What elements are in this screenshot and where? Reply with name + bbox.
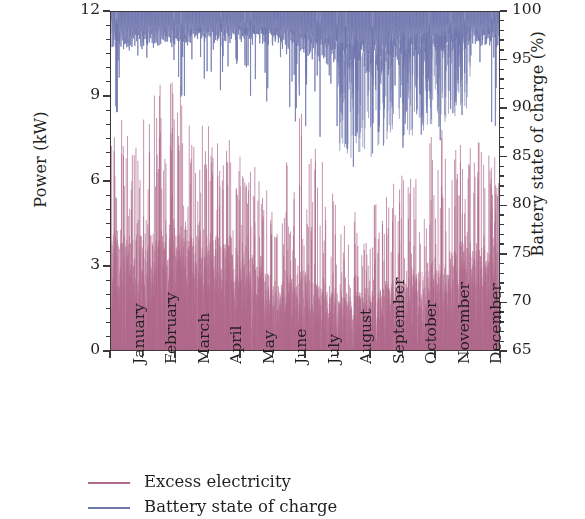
y-axis-right-minor-tick xyxy=(500,292,504,293)
y-axis-right-minor-tick xyxy=(500,166,504,167)
x-axis-tick xyxy=(142,351,143,358)
x-axis-tick xyxy=(402,351,403,358)
x-axis-tick xyxy=(207,351,208,358)
y-axis-left-tick xyxy=(103,10,110,11)
y-axis-right-minor-tick xyxy=(500,175,504,176)
y-axis-left-tick-label: 6 xyxy=(62,170,100,188)
y-axis-right-minor-tick xyxy=(500,20,504,21)
y-axis-left-tick-label: 12 xyxy=(62,0,100,18)
y-axis-right-minor-tick xyxy=(500,282,504,283)
y-axis-right-minor-tick xyxy=(500,341,504,342)
y-axis-left-tick-label: 0 xyxy=(62,340,100,358)
y-axis-right-title: Battery state of charge (%) xyxy=(528,57,547,257)
y-axis-right-minor-tick xyxy=(500,137,504,138)
plot-area xyxy=(110,11,500,351)
chart-legend: Excess electricity Battery state of char… xyxy=(88,470,418,519)
y-axis-right-minor-tick xyxy=(500,39,504,40)
x-axis-tick xyxy=(174,351,175,358)
y-axis-right-minor-tick xyxy=(500,69,504,70)
y-axis-right-tick xyxy=(500,205,507,206)
legend-label-battery-state-of-charge: Battery state of charge xyxy=(144,499,337,516)
x-axis-tick xyxy=(499,351,500,358)
y-axis-right-tick-label: 65 xyxy=(512,340,552,358)
y-axis-right-minor-tick xyxy=(500,49,504,50)
legend-item-excess-electricity: Excess electricity xyxy=(88,470,418,495)
y-axis-right-tick xyxy=(500,10,507,11)
y-axis-left-tick xyxy=(103,265,110,266)
chart-series-canvas xyxy=(111,12,500,351)
y-axis-right-tick xyxy=(500,156,507,157)
x-axis-tick xyxy=(434,351,435,358)
y-axis-left-title: Power (kW) xyxy=(31,60,50,260)
x-axis-tick xyxy=(467,351,468,358)
y-axis-right-minor-tick xyxy=(500,263,504,264)
y-axis-right-minor-tick xyxy=(500,214,504,215)
y-axis-right-minor-tick xyxy=(500,234,504,235)
y-axis-right-minor-tick xyxy=(500,185,504,186)
y-axis-left-tick xyxy=(103,95,110,96)
legend-label-excess-electricity: Excess electricity xyxy=(144,474,291,491)
y-axis-right-minor-tick xyxy=(500,195,504,196)
y-axis-right-minor-tick xyxy=(500,331,504,332)
y-axis-right-tick xyxy=(500,302,507,303)
y-axis-right-minor-tick xyxy=(500,88,504,89)
y-axis-right-minor-tick xyxy=(500,243,504,244)
y-axis-right-minor-tick xyxy=(500,30,504,31)
chart-figure: Power (kW) Battery state of charge (%) 0… xyxy=(0,0,585,519)
y-axis-left-tick-label: 9 xyxy=(62,85,100,103)
x-axis-tick xyxy=(272,351,273,358)
y-axis-right-tick-label: 70 xyxy=(512,291,552,309)
y-axis-right-minor-tick xyxy=(500,224,504,225)
y-axis-left-tick xyxy=(103,180,110,181)
y-axis-right-tick xyxy=(500,107,507,108)
y-axis-left-tick-label: 3 xyxy=(62,255,100,273)
y-axis-right-minor-tick xyxy=(500,98,504,99)
y-axis-right-minor-tick xyxy=(500,78,504,79)
x-axis-tick xyxy=(109,351,110,358)
y-axis-right-tick xyxy=(500,59,507,60)
legend-swatch-battery-state-of-charge xyxy=(88,507,130,509)
y-axis-right-tick xyxy=(500,350,507,351)
x-axis-tick xyxy=(239,351,240,358)
x-axis-tick xyxy=(304,351,305,358)
x-axis-tick xyxy=(369,351,370,358)
y-axis-right-minor-tick xyxy=(500,321,504,322)
y-axis-right-tick xyxy=(500,253,507,254)
y-axis-right-minor-tick xyxy=(500,146,504,147)
y-axis-right-tick-label: 100 xyxy=(512,0,552,18)
y-axis-right-minor-tick xyxy=(500,311,504,312)
legend-swatch-excess-electricity xyxy=(88,482,130,484)
x-axis-tick xyxy=(337,351,338,358)
y-axis-left-tick xyxy=(103,350,110,351)
y-axis-right-minor-tick xyxy=(500,127,504,128)
y-axis-right-minor-tick xyxy=(500,273,504,274)
y-axis-right-minor-tick xyxy=(500,117,504,118)
legend-item-battery-state-of-charge: Battery state of charge xyxy=(88,495,418,519)
